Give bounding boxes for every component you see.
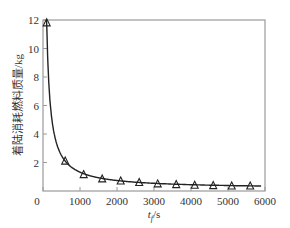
y-tick-label: 4 xyxy=(34,128,40,140)
x-tick-label: 6000 xyxy=(254,195,277,207)
x-tick-label: 3000 xyxy=(143,195,166,207)
x-tick-label: 2000 xyxy=(106,195,129,207)
y-tick-label: 2 xyxy=(34,157,40,169)
y-tick-label: 10 xyxy=(28,43,40,55)
y-tick-label: 6 xyxy=(34,100,40,112)
data-markers xyxy=(43,19,254,189)
y-axis-label: 着陆消耗燃料质量/kg xyxy=(11,53,24,156)
plot-frame xyxy=(43,20,265,191)
x-axis-ticks: 0100020003000400050006000 xyxy=(34,187,276,207)
x-tick-label: 4000 xyxy=(180,195,203,207)
y-tick-label: 8 xyxy=(34,71,40,83)
x-tick-label: 1000 xyxy=(69,195,92,207)
y-tick-label: 12 xyxy=(28,14,39,26)
y-axis-ticks: 24681012 xyxy=(28,14,47,169)
x-tick-label: 0 xyxy=(34,195,40,207)
x-tick-label: 5000 xyxy=(217,195,240,207)
fitted-curve xyxy=(47,20,262,186)
fuel-mass-chart: 24681012 0100020003000400050006000 着陆消耗燃… xyxy=(0,0,290,228)
x-axis-label: tf/s xyxy=(148,208,161,223)
